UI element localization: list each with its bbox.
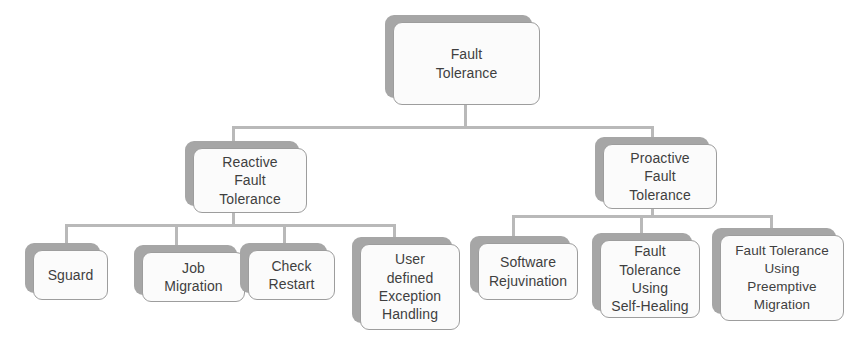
- node-card: Software Rejuvination: [478, 243, 578, 300]
- node-root-fault-tolerance[interactable]: Fault Tolerance: [385, 15, 532, 98]
- connector-level2-bus: [232, 126, 654, 129]
- node-card: Reactive Fault Tolerance: [193, 148, 307, 213]
- node-card: Job Migration: [142, 252, 245, 302]
- node-label: Check Restart: [269, 257, 315, 294]
- node-card: Fault Tolerance Using Preemptive Migrati…: [720, 235, 844, 321]
- node-label: Proactive Fault Tolerance: [629, 149, 691, 204]
- node-label: Sguard: [48, 266, 94, 284]
- node-label: User defined Exception Handling: [379, 250, 441, 324]
- node-fault-tolerance-using-preemptive-migration[interactable]: Fault Tolerance Using Preemptive Migrati…: [712, 228, 836, 314]
- node-card: Sguard: [33, 250, 108, 300]
- connector-leaf-user-defined-stem: [393, 224, 396, 237]
- connector-leaf-sguard-stem: [65, 224, 68, 243]
- node-card: Fault Tolerance: [393, 22, 540, 105]
- fault-tolerance-tree-diagram: Fault Tolerance Reactive Fault Tolerance…: [0, 0, 868, 345]
- node-card: User defined Exception Handling: [360, 244, 460, 330]
- node-reactive-fault-tolerance[interactable]: Reactive Fault Tolerance: [185, 141, 299, 206]
- node-label: Fault Tolerance Using Self-Healing: [611, 242, 688, 316]
- node-label: Software Rejuvination: [489, 253, 567, 290]
- node-software-rejuvination[interactable]: Software Rejuvination: [470, 236, 570, 293]
- node-card: Proactive Fault Tolerance: [603, 144, 717, 209]
- connector-leaf-check-restart-stem: [283, 224, 286, 243]
- connector-reactive-leaf-bus: [65, 224, 396, 227]
- node-label: Reactive Fault Tolerance: [219, 153, 281, 208]
- node-check-restart[interactable]: Check Restart: [240, 243, 327, 293]
- connector-leaf-job-migration-stem: [175, 224, 178, 245]
- connector-leaf-self-healing-stem: [640, 215, 643, 233]
- node-label: Fault Tolerance: [436, 45, 498, 82]
- node-user-defined-exception-handling[interactable]: User defined Exception Handling: [352, 237, 452, 323]
- connector-leaf-software-rejuvination-stem: [512, 215, 515, 236]
- node-card: Check Restart: [248, 250, 335, 300]
- node-label: Fault Tolerance Using Preemptive Migrati…: [735, 242, 829, 313]
- node-label: Job Migration: [164, 259, 222, 296]
- node-proactive-fault-tolerance[interactable]: Proactive Fault Tolerance: [595, 137, 709, 202]
- node-fault-tolerance-using-self-healing[interactable]: Fault Tolerance Using Self-Healing: [592, 233, 692, 311]
- node-job-migration[interactable]: Job Migration: [134, 245, 237, 295]
- node-sguard[interactable]: Sguard: [25, 243, 100, 293]
- node-card: Fault Tolerance Using Self-Healing: [600, 240, 700, 318]
- connector-leaf-preemptive-migration-stem: [770, 215, 773, 228]
- connector-root-stem: [464, 104, 467, 128]
